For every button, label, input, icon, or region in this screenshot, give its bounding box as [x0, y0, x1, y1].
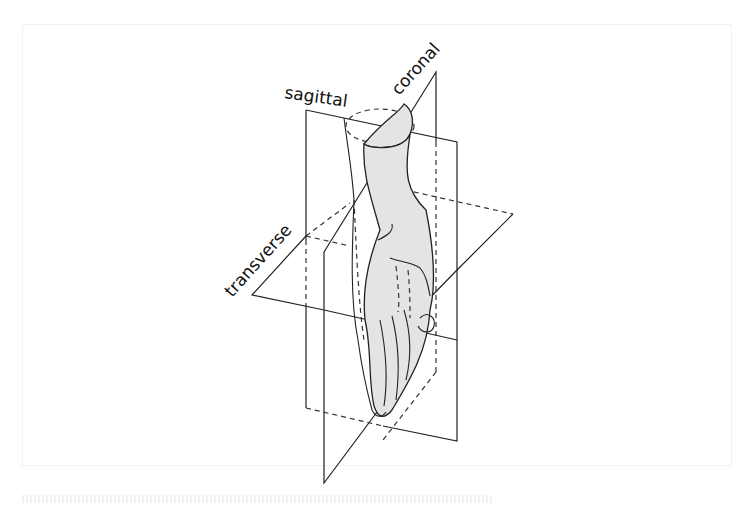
label-coronal: coronal	[387, 39, 444, 99]
label-sagittal: sagittal	[283, 82, 348, 111]
anatomical-planes-diagram: sagittal coronal transverse	[0, 0, 745, 509]
hand-illustration	[344, 104, 434, 416]
bottom-caption-strip	[22, 495, 494, 503]
